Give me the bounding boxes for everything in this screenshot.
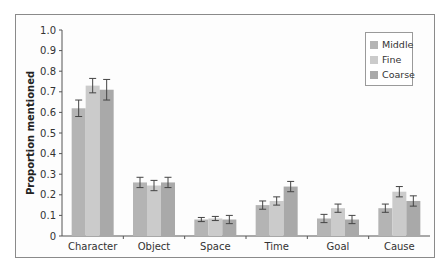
bar-series — [72, 78, 421, 236]
bar-middle — [256, 205, 270, 236]
y-tick-label: 0.1 — [40, 210, 56, 221]
y-tick-label: 0.7 — [40, 86, 56, 97]
legend-label-fine: Fine — [382, 54, 401, 65]
x-tick-label: Space — [200, 241, 230, 252]
y-tick-label: 0 — [50, 231, 56, 242]
y-tick-label: 0.5 — [40, 128, 56, 139]
legend-item-coarse: Coarse — [370, 67, 408, 82]
x-tick-label: Time — [263, 241, 288, 252]
legend-swatch-fine — [370, 56, 378, 64]
bar-coarse — [161, 182, 175, 236]
legend-swatch-middle — [370, 41, 378, 49]
x-tick-label: Object — [138, 241, 171, 252]
legend-item-fine: Fine — [370, 52, 408, 67]
y-tick-label: 0.4 — [40, 148, 56, 159]
x-axis: CharacterObjectSpaceTimeGoalCause — [62, 236, 430, 252]
y-tick-label: 0.9 — [40, 45, 56, 56]
y-axis: 00.10.20.30.40.50.60.70.80.91.0 — [40, 25, 62, 242]
bar-fine — [392, 192, 406, 236]
bar-middle — [133, 182, 147, 236]
bar-coarse — [100, 90, 114, 236]
y-tick-label: 0.3 — [40, 169, 56, 180]
bar-fine — [147, 186, 161, 236]
legend: Middle Fine Coarse — [365, 32, 413, 86]
legend-label-coarse: Coarse — [382, 69, 415, 80]
bar-fine — [86, 86, 100, 236]
y-tick-label: 0.8 — [40, 66, 56, 77]
x-tick-label: Character — [68, 241, 118, 252]
legend-label-middle: Middle — [382, 39, 413, 50]
y-tick-label: 1.0 — [40, 25, 56, 36]
y-axis-label: Proportion mentioned — [25, 71, 36, 195]
y-tick-label: 0.6 — [40, 107, 56, 118]
bar-fine — [208, 218, 222, 236]
bar-middle — [72, 108, 86, 236]
legend-item-middle: Middle — [370, 37, 408, 52]
x-tick-label: Cause — [384, 241, 415, 252]
legend-swatch-coarse — [370, 71, 378, 79]
bar-fine — [270, 201, 284, 236]
x-tick-label: Goal — [327, 241, 350, 252]
bar-coarse — [284, 187, 298, 236]
y-tick-label: 0.2 — [40, 189, 56, 200]
